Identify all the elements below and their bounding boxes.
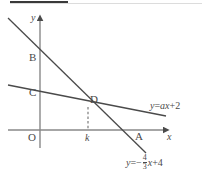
point-label-d: D	[90, 94, 98, 105]
point-label-a: A	[135, 131, 143, 142]
point-label-b: B	[29, 52, 36, 63]
point-label-c: C	[29, 87, 36, 98]
eq-steep-denominator: 3	[143, 162, 147, 171]
eq-steep-constant: 4	[158, 157, 163, 168]
origin-label: O	[28, 132, 36, 143]
eq-shallow-constant: 2	[175, 100, 180, 111]
point-label-k: k	[85, 133, 89, 143]
eq-steep-fraction: 43	[143, 154, 147, 172]
math-figure: y x O B C D A k y=ax+2 y=−43x+4	[0, 0, 209, 180]
equation-label-steep: y=−43x+4	[126, 155, 163, 173]
x-axis-label: x	[167, 132, 171, 142]
eq-steep-minus: −	[136, 157, 142, 168]
eq-steep-numerator: 4	[143, 154, 147, 162]
y-axis-label: y	[31, 13, 35, 23]
equation-label-shallow: y=ax+2	[150, 101, 180, 111]
